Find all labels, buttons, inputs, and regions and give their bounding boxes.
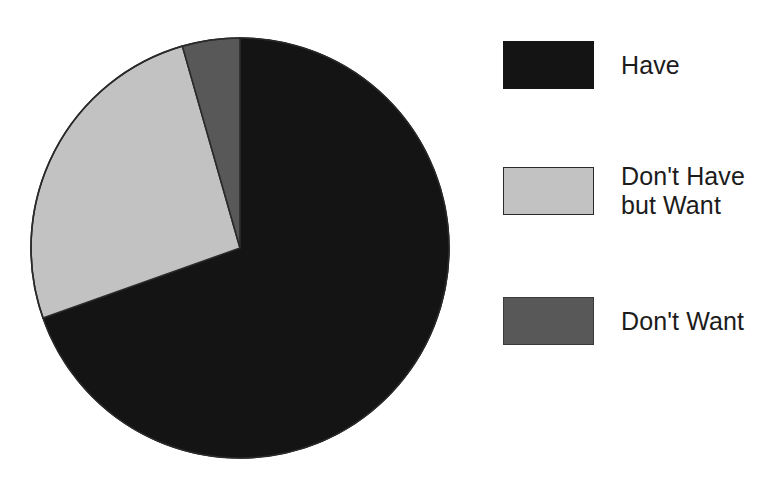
pie-chart-svg (28, 35, 452, 463)
legend-label-have: Have (621, 51, 680, 80)
pie-chart-figure: Have Don't Have but Want Don't Want (0, 0, 784, 481)
legend-item-dont-want[interactable]: Don't Want (503, 296, 775, 346)
legend-swatch-dont-want-icon (503, 297, 594, 345)
chart-legend: Have Don't Have but Want Don't Want (503, 40, 775, 360)
legend-swatch-have-icon (503, 41, 594, 89)
pie-chart-plot-area (28, 35, 452, 463)
legend-label-dont-have-but-want: Don't Have but Want (621, 162, 745, 220)
legend-item-dont-have-but-want[interactable]: Don't Have but Want (503, 166, 775, 216)
legend-swatch-dont-have-but-want-icon (503, 167, 594, 215)
legend-label-dont-want: Don't Want (621, 307, 744, 336)
legend-item-have[interactable]: Have (503, 40, 775, 90)
